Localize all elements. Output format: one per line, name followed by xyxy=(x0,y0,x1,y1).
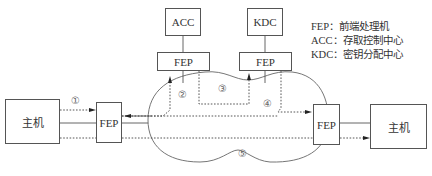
acc-box: ACC xyxy=(165,8,201,36)
step-3-label: ③ xyxy=(218,83,227,94)
acc-label: ACC xyxy=(172,16,195,28)
fep-left-label: FEP xyxy=(100,117,119,129)
step-2-label: ② xyxy=(178,89,187,100)
fep-acc-label: FEP xyxy=(174,56,193,68)
legend-item-fep: FEP：前端处理机 xyxy=(311,20,403,34)
legend-item-acc: ACC：存取控制中心 xyxy=(311,34,403,48)
fep-acc-box: FEP xyxy=(157,52,210,71)
fep-right-label: FEP xyxy=(317,119,336,131)
legend-item-kdc: KDC：密钥分配中心 xyxy=(311,48,403,62)
legend: FEP：前端处理机 ACC：存取控制中心 KDC：密钥分配中心 xyxy=(311,20,403,62)
host-right-box: 主机 xyxy=(370,104,427,149)
host-left-box: 主机 xyxy=(5,99,60,144)
kdc-label: KDC xyxy=(253,16,276,28)
host-right-label: 主机 xyxy=(388,119,410,135)
fep-right-box: FEP xyxy=(313,104,340,145)
step-1-label: ① xyxy=(71,95,80,106)
kdc-box: KDC xyxy=(247,8,283,36)
fep-kdc-box: FEP xyxy=(239,52,292,71)
fep-left-box: FEP xyxy=(96,102,122,143)
fep-kdc-label: FEP xyxy=(256,56,275,68)
step-5-label: ⑤ xyxy=(238,148,247,159)
host-left-label: 主机 xyxy=(22,114,44,130)
step-4-label: ④ xyxy=(263,98,272,109)
